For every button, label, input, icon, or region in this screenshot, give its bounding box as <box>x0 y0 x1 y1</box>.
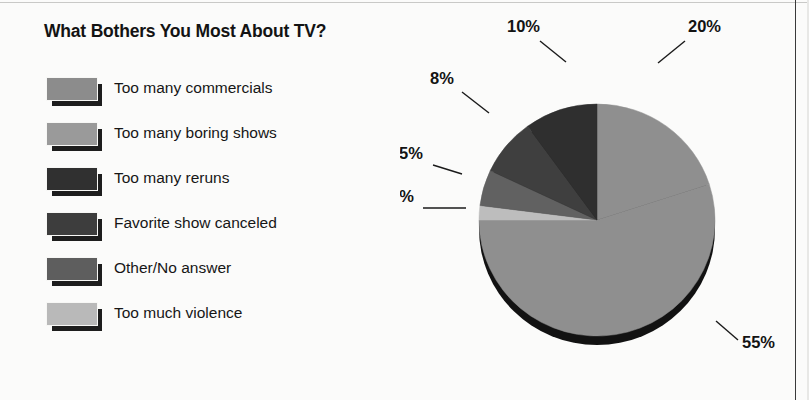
legend-item-boring-shows[interactable]: Too many boring shows <box>46 118 376 163</box>
legend-label-violence: Too much violence <box>114 302 242 324</box>
legend-swatch-other-no-answer <box>46 257 102 287</box>
legend-swatch-face <box>46 167 98 191</box>
legend-label-commercials: Too many commercials <box>114 77 273 99</box>
legend-swatch-violence <box>46 302 102 332</box>
legend-swatch-face <box>46 122 98 146</box>
pie-chart: 10% 20% 8% 5% 2% 55% <box>400 0 809 400</box>
pie-label-8: 8% <box>430 69 454 87</box>
chart-page: What Bothers You Most About TV? Too many… <box>0 0 809 400</box>
pie-label-55: 55% <box>742 333 775 351</box>
page-title: What Bothers You Most About TV? <box>44 21 326 42</box>
legend-swatch-reruns <box>46 167 102 197</box>
legend-swatch-face <box>46 302 98 326</box>
legend-item-commercials[interactable]: Too many commercials <box>46 73 376 118</box>
leader-line-10 <box>540 41 566 62</box>
legend-item-favorite-show-canceled[interactable]: Favorite show canceled <box>46 208 376 253</box>
pie-slices <box>479 104 715 336</box>
legend-swatch-face <box>46 77 98 101</box>
legend-item-reruns[interactable]: Too many reruns <box>46 163 376 208</box>
legend-item-violence[interactable]: Too much violence <box>46 298 376 343</box>
pie-label-2: 2% <box>400 187 414 205</box>
legend-swatch-boring-shows <box>46 122 102 152</box>
leader-line-20 <box>658 41 685 63</box>
legend-swatch-face <box>46 212 98 236</box>
legend-swatch-commercials <box>46 77 102 107</box>
legend-label-other-no-answer: Other/No answer <box>114 257 231 279</box>
leader-line-8 <box>462 92 489 113</box>
leader-line-5 <box>433 165 462 174</box>
pie-label-10: 10% <box>507 17 540 35</box>
pie-label-5: 5% <box>400 144 423 162</box>
leader-line-55 <box>716 321 738 340</box>
chart-legend: Too many commercials Too many boring sho… <box>46 73 376 343</box>
legend-label-favorite-show-canceled: Favorite show canceled <box>114 212 277 234</box>
legend-swatch-face <box>46 257 98 281</box>
legend-label-boring-shows: Too many boring shows <box>114 122 277 144</box>
legend-swatch-favorite-show-canceled <box>46 212 102 242</box>
legend-label-reruns: Too many reruns <box>114 167 229 189</box>
pie-label-20: 20% <box>688 17 721 35</box>
legend-item-other-no-answer[interactable]: Other/No answer <box>46 253 376 298</box>
